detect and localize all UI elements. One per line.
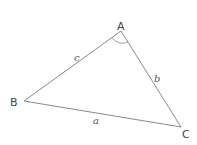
triangle-diagram: A B C c b a xyxy=(0,0,197,145)
vertex-label-c: C xyxy=(182,128,190,141)
vertex-label-a: A xyxy=(117,20,125,33)
vertex-label-b: B xyxy=(10,96,18,109)
side-label-a: a xyxy=(93,115,99,126)
side-label-b: b xyxy=(154,73,160,84)
side-label-c: c xyxy=(74,52,80,63)
